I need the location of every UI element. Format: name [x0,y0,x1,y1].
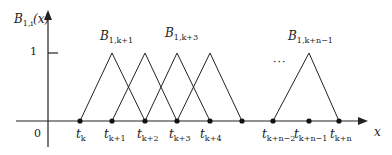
basis-label: B1,k+1 [100,29,133,45]
basis-k3 [177,53,242,121]
knot-label: tk+n−1 [294,127,327,143]
basis-k [80,53,145,121]
basis-label: B1,k+3 [165,26,198,42]
x-axis-arrow-icon [358,117,368,125]
knot-label: tk+1 [104,127,125,143]
origin-label: 0 [34,127,41,140]
knot-label: tk+2 [137,127,158,143]
knot-label: tk+n [330,127,352,143]
ellipsis: ··· [273,56,287,69]
bspline-diagram: B1,i(x) 1 0 x ··· B1,k+1 B1,k+3 B1,k+n−1… [0,0,392,155]
x-axis-label: x [374,125,381,139]
basis-functions [80,53,339,121]
basis-k2 [145,53,210,121]
knot-label: tk+n−2 [262,127,295,143]
knot-label: tk+4 [200,127,221,143]
knot-label: tk+3 [169,127,190,143]
knot-label: tk [76,127,86,143]
y-tick-label: 1 [30,45,37,58]
y-axis-label: B1,i(x) [14,12,49,28]
basis-label: B1,k+n−1 [288,29,333,45]
basis-k1 [112,53,177,121]
